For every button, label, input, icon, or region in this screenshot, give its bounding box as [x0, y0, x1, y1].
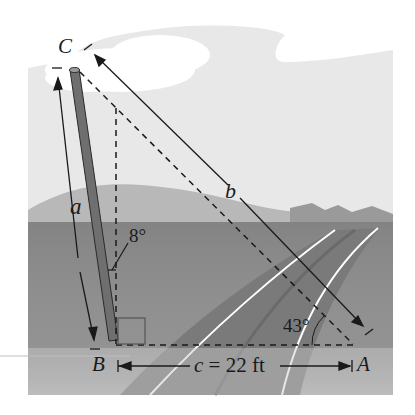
vertex-label-b: B [92, 354, 105, 375]
vertex-label-a: A [357, 354, 370, 375]
side-c-symbol: c [194, 353, 203, 377]
vertex-label-c: C [58, 36, 72, 57]
lean-angle-label: 8° [129, 226, 146, 245]
diagram: C B A a b c = 22 ft 8° 43° [0, 0, 415, 415]
side-label-c: c = 22 ft [194, 355, 265, 376]
side-label-a: a [70, 195, 82, 218]
angle-a-label: 43° [283, 316, 310, 335]
side-label-b: b [225, 180, 236, 202]
